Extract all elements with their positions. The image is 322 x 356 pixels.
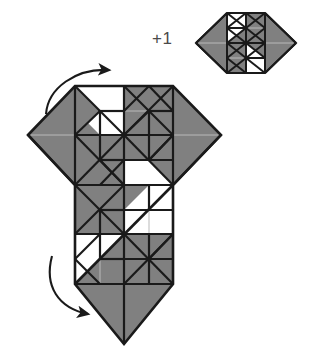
diagram-canvas bbox=[0, 0, 322, 356]
repeat-count-label: +1 bbox=[152, 29, 172, 49]
origami-diagram: +1 bbox=[0, 0, 322, 356]
main-model-group bbox=[28, 86, 221, 344]
reference-model-group bbox=[196, 13, 296, 73]
